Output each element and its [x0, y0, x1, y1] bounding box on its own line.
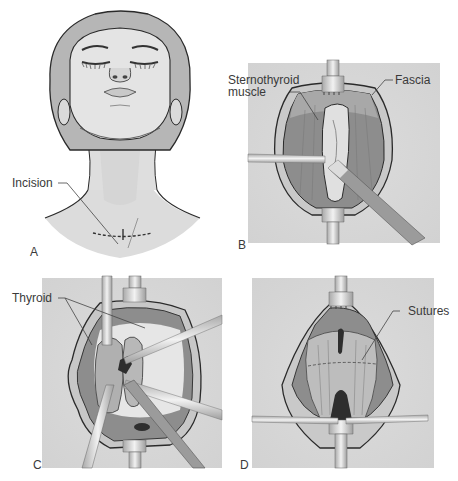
panel-letter-c: C: [33, 458, 42, 472]
label-fascia: Fascia: [395, 74, 430, 87]
panel-c-art: [42, 276, 222, 468]
label-muscle: muscle: [228, 86, 266, 99]
panel-letter-a: A: [30, 245, 38, 259]
label-incision: Incision: [12, 177, 53, 190]
panel-letter-d: D: [240, 458, 249, 472]
panel-d-art: [252, 276, 434, 468]
label-sutures: Sutures: [408, 305, 449, 318]
panel-letter-b: B: [238, 238, 246, 252]
panel-b-art: [248, 60, 440, 245]
tracheostomy-figure: Incision A Sternothyroid muscle Fascia B…: [0, 0, 458, 481]
label-thyroid: Thyroid: [12, 292, 52, 305]
panel-a-art: [45, 11, 200, 258]
